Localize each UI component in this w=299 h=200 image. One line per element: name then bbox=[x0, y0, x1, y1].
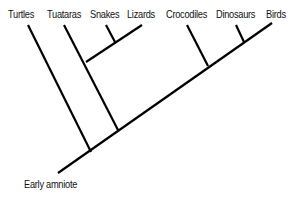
taxon-label-snakes: Snakes bbox=[90, 8, 119, 20]
branch-snakes bbox=[106, 25, 115, 42]
taxon-label-crocodiles: Crocodiles bbox=[166, 8, 207, 20]
branch-dinosaurs bbox=[236, 25, 244, 42]
branch-turtles bbox=[28, 25, 91, 152]
root-label: Early amniote bbox=[24, 178, 77, 190]
cladogram-lines bbox=[0, 0, 299, 200]
taxon-label-dinosaurs: Dinosaurs bbox=[216, 8, 255, 20]
taxon-label-birds: Birds bbox=[266, 8, 286, 20]
taxon-label-tuataras: Tuataras bbox=[47, 8, 81, 20]
taxon-label-lizards: Lizards bbox=[127, 8, 155, 20]
branch-squamates bbox=[86, 25, 142, 62]
branch-crocodiles bbox=[187, 25, 208, 66]
taxon-label-turtles: Turtles bbox=[8, 8, 34, 20]
